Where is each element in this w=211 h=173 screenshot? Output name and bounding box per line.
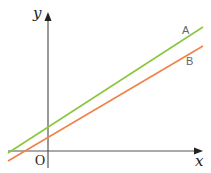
- y-axis-arrow-icon: [45, 12, 52, 21]
- line-a: [8, 27, 203, 153]
- line-b: [8, 46, 203, 161]
- y-axis-label: y: [33, 6, 41, 21]
- coordinate-diagram: y x O A B: [0, 0, 211, 173]
- x-axis-label: x: [195, 154, 203, 169]
- origin-label: O: [35, 154, 45, 168]
- line-a-label: A: [182, 25, 189, 36]
- line-b-label: B: [186, 56, 193, 67]
- diagram-canvas: [0, 0, 211, 173]
